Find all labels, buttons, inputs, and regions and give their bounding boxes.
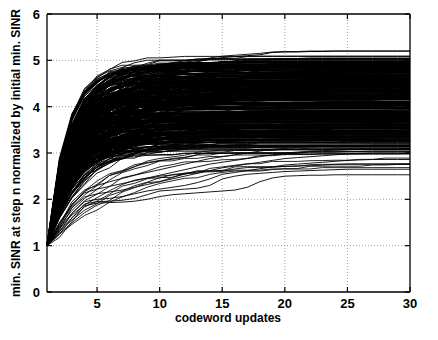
x-tick-labels: 51015202530: [93, 296, 417, 311]
x-tick-label: 15: [215, 296, 229, 311]
x-axis-title: codeword updates: [175, 311, 281, 325]
y-tick-label: 3: [33, 146, 40, 161]
x-tick-label: 10: [152, 296, 166, 311]
x-tick-label: 25: [340, 296, 354, 311]
y-axis-title: min. SINR at step n normalized by initia…: [9, 9, 23, 297]
y-tick-label: 1: [33, 239, 40, 254]
y-tick-label: 6: [33, 7, 40, 22]
x-tick-label: 5: [93, 296, 100, 311]
y-tick-label: 5: [33, 53, 40, 68]
y-tick-labels: 0123456: [33, 7, 41, 300]
y-tick-label: 4: [33, 100, 41, 115]
chart-figure: 51015202530 0123456 codeword updates min…: [0, 0, 438, 340]
y-tick-label: 0: [33, 285, 40, 300]
x-tick-label: 30: [403, 296, 417, 311]
y-tick-label: 2: [33, 192, 40, 207]
line-chart: 51015202530 0123456 codeword updates min…: [0, 0, 438, 340]
x-tick-label: 20: [278, 296, 292, 311]
